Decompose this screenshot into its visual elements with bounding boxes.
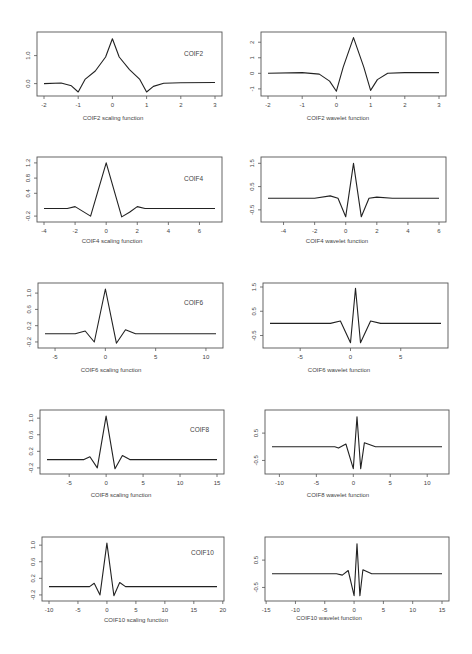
x-tick-label: 5 [399, 354, 403, 360]
function-curve [44, 163, 215, 217]
plot-frame [261, 32, 446, 96]
x-tick-label: 4 [167, 228, 171, 234]
x-tick-label: 0 [111, 102, 115, 108]
chart-coif10-wavelet: -15-10-5051015-0.50.5 COIF10 wavelet fun… [265, 537, 449, 601]
x-axis-label: COIF6 wavelet function [308, 367, 370, 373]
x-tick-label: -1 [76, 102, 82, 108]
chart-coif10-scaling: -10-505101520-0.20.20.61.0 COIF10 COIF10… [42, 537, 224, 601]
x-tick-label: 0 [104, 354, 108, 360]
function-curve [272, 417, 442, 469]
y-tick-label: -0.2 [28, 462, 34, 473]
x-tick-label: 2 [136, 228, 140, 234]
x-tick-label: 20 [219, 607, 226, 613]
y-tick-label: 0.5 [249, 182, 255, 191]
plot-area: -4-20246-0.50.51.5 [261, 157, 446, 222]
x-tick-label: -5 [314, 480, 320, 486]
x-tick-label: -2 [265, 102, 271, 108]
plot-area: -2-10123-1012 [261, 32, 446, 96]
plot-frame [40, 410, 224, 474]
legend-label: COIF6 [184, 299, 203, 306]
y-tick-label: 1.2 [25, 158, 31, 167]
chart-coif4-scaling: -4-20246-0.20.40.81.2 COIF4 COIF4 scalin… [37, 157, 222, 222]
x-tick-label: -2 [41, 102, 47, 108]
x-tick-label: 6 [437, 228, 441, 234]
x-axis-label: COIF8 wavelet function [307, 492, 369, 498]
y-tick-label: -0.5 [251, 330, 257, 341]
legend-label: COIF4 [184, 175, 203, 182]
y-tick-label: -0.5 [249, 204, 255, 215]
y-tick-label: 0.0 [25, 79, 31, 88]
y-tick-label: 0.6 [26, 305, 32, 314]
x-tick-label: 0 [105, 228, 109, 234]
y-tick-label: 0.2 [28, 447, 34, 456]
x-tick-label: 5 [389, 480, 393, 486]
y-tick-label: 1.5 [251, 282, 257, 291]
y-tick-label: -0.2 [30, 589, 36, 600]
function-curve [270, 288, 441, 343]
plot-area: -50510-0.20.20.61.0 [38, 283, 223, 348]
x-tick-label: 3 [437, 102, 441, 108]
function-curve [45, 289, 216, 343]
x-tick-label: 2 [179, 102, 183, 108]
x-axis-label: COIF10 wavelet function [296, 615, 362, 621]
x-tick-label: 15 [214, 480, 221, 486]
chart-coif2-wavelet: -2-10123-1012 COIF2 wavelet function [261, 32, 446, 96]
function-curve [272, 544, 442, 596]
chart-coif4-wavelet: -4-20246-0.50.51.5 COIF4 wavelet functio… [261, 157, 446, 222]
chart-coif2-scaling: -2-101230.01.0 COIF2 COIF2 scaling funct… [37, 32, 222, 96]
chart-coif6-scaling: -50510-0.20.20.61.0 COIF6 COIF6 scaling … [38, 283, 223, 348]
plot-area: -4-20246-0.20.40.81.2 [37, 157, 222, 222]
y-tick-label: -0.2 [25, 210, 31, 221]
x-tick-label: 15 [190, 607, 197, 613]
plot-area: -5051015-0.20.20.61.0 [40, 410, 224, 474]
legend-label: COIF8 [190, 426, 209, 433]
y-tick-label: 0.5 [253, 428, 259, 437]
x-tick-label: 3 [213, 102, 217, 108]
x-tick-label: -2 [72, 228, 78, 234]
x-tick-label: -15 [262, 607, 271, 613]
x-tick-label: -5 [52, 354, 58, 360]
y-tick-label: 1.0 [25, 51, 31, 60]
x-tick-label: -5 [75, 607, 81, 613]
x-tick-label: 0 [352, 607, 356, 613]
x-tick-label: 0 [104, 480, 108, 486]
plot-area: -15-10-5051015-0.50.5 [265, 537, 449, 601]
x-tick-label: -4 [41, 228, 47, 234]
function-curve [47, 416, 217, 469]
x-tick-label: -10 [275, 480, 284, 486]
chart-coif8-scaling: -5051015-0.20.20.61.0 COIF8 COIF8 scalin… [40, 410, 224, 474]
plot-area: -10-50510-0.50.5 [265, 410, 449, 474]
x-tick-label: -5 [298, 354, 304, 360]
chart-coif8-wavelet: -10-50510-0.50.5 COIF8 wavelet function [265, 410, 449, 474]
x-axis-label: COIF6 scaling function [81, 367, 142, 373]
x-tick-label: 2 [403, 102, 407, 108]
x-tick-label: 1 [145, 102, 149, 108]
x-tick-label: 10 [162, 607, 169, 613]
x-tick-label: 5 [154, 354, 158, 360]
y-tick-label: 0.4 [25, 188, 31, 197]
x-tick-label: -5 [322, 607, 328, 613]
function-curve [268, 38, 439, 92]
x-tick-label: 5 [141, 480, 145, 486]
y-tick-label: 1 [249, 55, 255, 59]
y-tick-label: 2 [249, 40, 255, 44]
x-tick-label: 10 [203, 354, 210, 360]
x-tick-label: 0 [335, 102, 339, 108]
y-tick-label: 1.0 [28, 413, 34, 422]
x-tick-label: 2 [375, 228, 379, 234]
x-axis-label: COIF4 scaling function [82, 238, 143, 244]
legend-label: COIF2 [184, 50, 203, 57]
legend-label: COIF10 [191, 549, 214, 556]
x-axis-label: COIF2 wavelet function [307, 115, 369, 121]
y-tick-label: 0.5 [251, 306, 257, 315]
x-axis-label: COIF2 scaling function [83, 115, 144, 121]
x-tick-label: 0 [349, 354, 353, 360]
plot-area: -505-0.50.51.5 [263, 283, 448, 348]
x-tick-label: 10 [424, 480, 431, 486]
x-tick-label: 10 [409, 607, 416, 613]
x-tick-label: 0 [352, 480, 356, 486]
function-curve [44, 39, 215, 92]
x-axis-label: COIF4 wavelet function [306, 238, 368, 244]
y-tick-label: -0.5 [253, 455, 259, 466]
x-tick-label: 1 [369, 102, 373, 108]
